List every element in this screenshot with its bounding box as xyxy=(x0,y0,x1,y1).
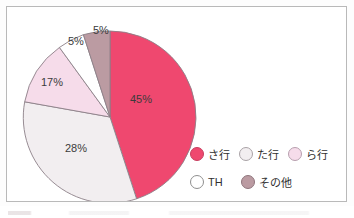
pie-label-other: 5% xyxy=(93,24,109,36)
screenshot-root: 45% 28% 17% 5% 5% さ行 た行 ら行 TH xyxy=(0,0,354,218)
legend-label-sa: さ行 xyxy=(208,146,230,162)
legend-swatch-ra-icon xyxy=(288,147,302,161)
legend-swatch-th-icon xyxy=(190,175,204,189)
legend-row-2: TH その他 xyxy=(190,168,342,196)
clipped-caption-artifact xyxy=(8,211,338,215)
clipped-caption-strip xyxy=(0,206,354,218)
pie-label-th: 5% xyxy=(68,35,84,47)
legend-swatch-ta-icon xyxy=(239,147,253,161)
legend-swatch-sa-icon xyxy=(190,147,204,161)
legend-label-ta: た行 xyxy=(257,146,279,162)
legend-swatch-other-icon xyxy=(241,175,255,189)
legend-item-other[interactable]: その他 xyxy=(241,174,292,190)
pie-label-sa: 45% xyxy=(130,93,152,105)
pie-label-ta: 28% xyxy=(65,142,87,154)
legend-label-ra: ら行 xyxy=(306,146,328,162)
legend-label-other: その他 xyxy=(259,174,292,190)
legend-item-ra[interactable]: ら行 xyxy=(288,146,328,162)
pie-chart-plot-area: 45% 28% 17% 5% 5% xyxy=(17,5,197,201)
legend-row-1: さ行 た行 ら行 xyxy=(190,140,342,168)
legend-label-th: TH xyxy=(208,176,223,188)
pie-label-ra: 17% xyxy=(41,76,63,88)
legend-item-th[interactable]: TH xyxy=(190,175,223,189)
legend-item-sa[interactable]: さ行 xyxy=(190,146,230,162)
chart-legend: さ行 た行 ら行 TH その他 xyxy=(190,140,342,196)
legend-item-ta[interactable]: た行 xyxy=(239,146,279,162)
